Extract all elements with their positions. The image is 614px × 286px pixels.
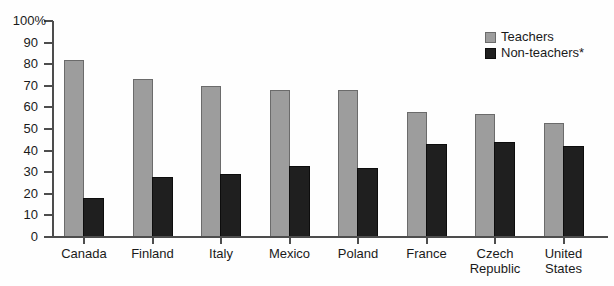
y-tick-label: 0 [0,229,38,245]
bar-teachers-czech-republic [475,114,495,237]
y-tick-label: 80 [0,56,38,72]
y-tick-label: 50 [0,121,38,137]
y-tick-label: 10 [0,207,38,223]
legend-item-teachers: Teachers [485,31,584,43]
non-teachers-swatch [485,48,496,59]
category-tick [494,237,496,244]
legend-item-non-teachers: Non-teachers* [485,47,584,59]
category-tick [289,237,291,244]
bar-teachers-italy [201,86,221,237]
bar-non-teachers-finland [152,177,173,237]
bar-teachers-france [407,112,427,237]
legend: Teachers Non-teachers* [485,31,584,59]
bar-non-teachers-united-states [563,146,584,237]
teachers-swatch [485,32,496,43]
y-tick-label: 70 [0,78,38,94]
category-tick [357,237,359,244]
bar-chart: Teachers Non-teachers* 100%9080706050403… [0,0,614,286]
bar-teachers-canada [64,60,84,237]
bar-non-teachers-poland [357,168,378,237]
category-tick [426,237,428,244]
y-tick-label: 30 [0,164,38,180]
x-axis-line [52,236,608,238]
y-tick-label: 100% [0,13,46,29]
legend-label-non-teachers: Non-teachers* [501,47,584,59]
bar-non-teachers-canada [83,198,104,237]
category-label: United States [522,246,606,276]
bar-non-teachers-czech-republic [494,142,515,237]
y-tick-label: 20 [0,186,38,202]
bar-non-teachers-france [426,144,447,237]
legend-label-teachers: Teachers [501,31,554,43]
bar-teachers-mexico [270,90,290,237]
y-axis-line [52,21,54,238]
bar-teachers-finland [133,79,153,237]
y-tick-label: 90 [0,35,38,51]
y-tick-label: 40 [0,143,38,159]
category-tick [563,237,565,244]
category-tick [152,237,154,244]
y-tick-label: 60 [0,99,38,115]
bar-teachers-poland [338,90,358,237]
category-tick [83,237,85,244]
bar-non-teachers-mexico [289,166,310,237]
bar-teachers-united-states [544,123,564,237]
category-tick [220,237,222,244]
bar-non-teachers-italy [220,174,241,237]
